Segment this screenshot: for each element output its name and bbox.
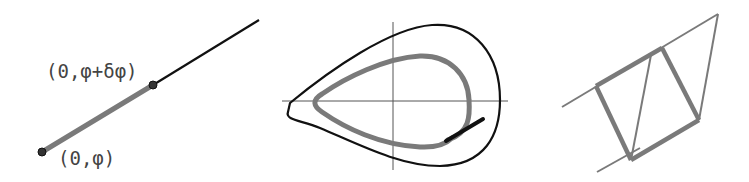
panel-segment: (0,φ+δφ) (0,φ) xyxy=(38,20,259,169)
label-top: (0,φ+δφ) xyxy=(46,60,138,82)
panel-parallelogram xyxy=(562,14,718,172)
inner-orbit xyxy=(315,56,469,147)
diagonal xyxy=(631,55,651,160)
upper-thick xyxy=(596,48,662,86)
endpoint-dot-top xyxy=(149,81,157,89)
black-line xyxy=(153,20,259,85)
panel-orbit xyxy=(282,22,508,170)
left-thick xyxy=(596,86,631,160)
right-edge xyxy=(699,14,718,120)
gray-thick-segment xyxy=(42,85,153,152)
right-thick xyxy=(662,48,699,120)
endpoint-dot-bottom xyxy=(38,148,46,156)
label-bottom: (0,φ) xyxy=(58,147,115,169)
tangent-segment xyxy=(446,119,483,141)
figure-canvas: (0,φ+δφ) (0,φ) xyxy=(0,0,749,182)
lower-thick xyxy=(631,120,699,160)
